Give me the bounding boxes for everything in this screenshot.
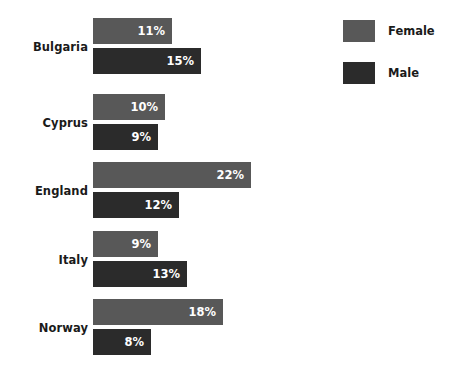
legend-swatch-male-icon: [343, 62, 375, 84]
bar-value-norway-female: 18%: [188, 299, 216, 325]
category-label-italy: Italy: [0, 253, 88, 267]
bar-row-bulgaria-female[interactable]: 11%: [93, 18, 172, 44]
category-label-norway: Norway: [0, 321, 88, 335]
category-label-bulgaria: Bulgaria: [0, 40, 88, 54]
legend-swatch-female-icon: [343, 20, 375, 42]
bar-row-italy-female[interactable]: 9%: [93, 231, 158, 257]
bar-row-cyprus-female[interactable]: 10%: [93, 94, 165, 120]
bar-group-england: England 22% 12%: [0, 162, 330, 222]
bar-value-italy-female: 9%: [131, 231, 151, 257]
bar-group-norway: Norway 18% 8%: [0, 299, 330, 359]
legend-label-female: Female: [388, 20, 435, 42]
bar-row-italy-male[interactable]: 13%: [93, 261, 187, 287]
bar-value-italy-male: 13%: [152, 261, 180, 287]
bar-group-bulgaria: Bulgaria 11% 15%: [0, 18, 330, 78]
bar-group-cyprus: Cyprus 10% 9%: [0, 94, 330, 154]
bar-row-norway-male[interactable]: 8%: [93, 329, 151, 355]
bar-value-england-male: 12%: [144, 192, 172, 218]
bar-row-bulgaria-male[interactable]: 15%: [93, 48, 201, 74]
category-label-england: England: [0, 184, 88, 198]
bar-row-england-female[interactable]: 22%: [93, 162, 251, 188]
bar-row-england-male[interactable]: 12%: [93, 192, 179, 218]
bar-value-bulgaria-male: 15%: [166, 48, 194, 74]
bar-value-cyprus-male: 9%: [131, 124, 151, 150]
bar-group-italy: Italy 9% 13%: [0, 231, 330, 291]
bar-value-bulgaria-female: 11%: [137, 18, 165, 44]
bar-chart: Bulgaria 11% 15% Cyprus 10% 9% E: [0, 0, 456, 376]
bar-value-cyprus-female: 10%: [130, 94, 158, 120]
legend-label-male: Male: [388, 62, 419, 84]
bar-row-cyprus-male[interactable]: 9%: [93, 124, 158, 150]
bar-value-england-female: 22%: [216, 162, 244, 188]
plot-area: Bulgaria 11% 15% Cyprus 10% 9% E: [0, 0, 330, 376]
bar-value-norway-male: 8%: [124, 329, 144, 355]
category-label-cyprus: Cyprus: [0, 116, 88, 130]
bar-row-norway-female[interactable]: 18%: [93, 299, 223, 325]
